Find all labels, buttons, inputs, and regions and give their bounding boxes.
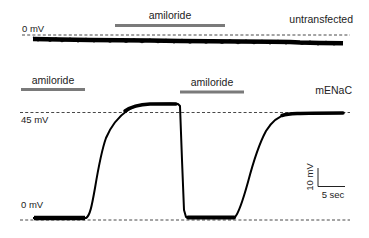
trace-menac [33, 104, 343, 219]
panel-menac: amiloride amiloride mENaC 45 mV 0 mV [20, 74, 352, 220]
condition-label-menac: mENaC [315, 84, 352, 96]
electrophysiology-figure: amiloride untransfected 0 mV amiloride a… [0, 0, 369, 238]
amiloride-label-2: amiloride [191, 76, 234, 88]
zero-mv-label-top: 0 mV [22, 23, 45, 34]
amiloride-label-1: amiloride [32, 74, 75, 86]
zero-mv-label-bottom: 0 mV [21, 199, 44, 210]
figure-canvas: amiloride untransfected 0 mV amiloride a… [0, 0, 369, 238]
scale-bar-horizontal-label: 5 sec [322, 189, 345, 200]
label-45mv: 45 mV [21, 114, 49, 125]
amiloride-label-top: amiloride [149, 9, 192, 21]
scale-bar: 10 mV 5 sec [304, 163, 345, 200]
scale-bar-lines [318, 168, 345, 187]
condition-label-untransfected: untransfected [289, 13, 353, 25]
trace-menac-plateau-2 [282, 113, 343, 116]
trace-menac-plateau-1 [125, 104, 176, 111]
panel-untransfected: amiloride untransfected 0 mV [22, 9, 353, 45]
scale-bar-vertical-label: 10 mV [304, 163, 315, 191]
